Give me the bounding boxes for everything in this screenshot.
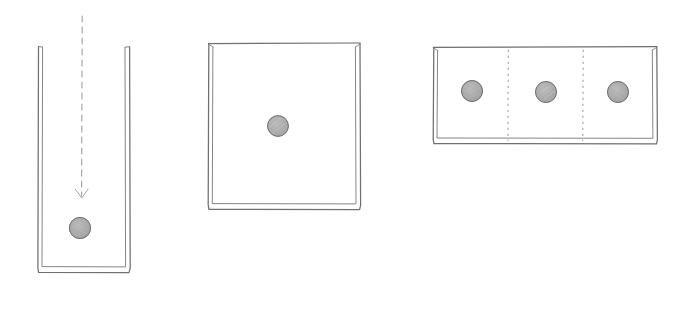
panel-square-container	[208, 43, 360, 210]
suspended-particle	[267, 115, 288, 136]
compartment-particle-3	[607, 81, 628, 102]
settled-particle	[69, 217, 91, 239]
figure-svg	[0, 0, 684, 310]
panel-tall-container	[38, 16, 130, 273]
figure-canvas	[0, 0, 684, 310]
panel-wide-container	[433, 47, 657, 144]
compartment-particle-1	[461, 80, 482, 101]
compartment-particle-2	[535, 81, 556, 102]
tall-container-walls	[38, 47, 130, 273]
dashed-drop-trajectory	[82, 16, 83, 196]
